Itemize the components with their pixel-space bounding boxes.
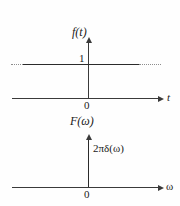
impulse-arrowhead <box>86 134 92 140</box>
x-axis-label-t: t <box>167 92 170 103</box>
impulse-line-delta <box>88 139 89 187</box>
impulse-magnitude-label: 2πδ(ω) <box>93 143 124 154</box>
signal-dotted-right <box>139 64 161 65</box>
x-axis-label-omega: ω <box>166 181 173 192</box>
signal-line-constant-one <box>22 64 140 65</box>
vertical-axis-arrowhead-top <box>86 37 92 43</box>
origin-label-bottom: 0 <box>84 189 90 200</box>
origin-label-top: 0 <box>84 100 90 111</box>
t-axis-arrowhead <box>158 96 164 102</box>
y-axis-label-F-omega: F(ω) <box>70 115 94 127</box>
signal-dotted-left <box>11 64 23 65</box>
figure-container: f(t) 1 0 t F(ω) 2πδ(ω) 0 ω <box>0 0 180 206</box>
amplitude-label-one: 1 <box>79 53 85 64</box>
y-axis-label-ft: f(t) <box>72 26 87 38</box>
time-domain-vertical-axis <box>88 42 89 99</box>
omega-axis-arrowhead <box>158 185 164 191</box>
